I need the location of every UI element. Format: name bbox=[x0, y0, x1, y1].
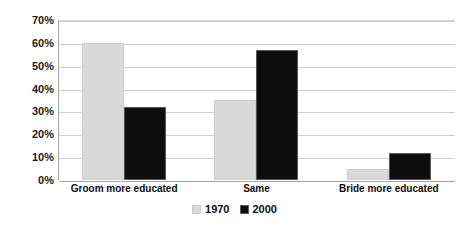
bar-2000-groom-more-educated bbox=[124, 107, 166, 180]
y-axis-tick-label: 30% bbox=[2, 106, 54, 117]
legend-item-1970[interactable]: 1970 bbox=[192, 204, 229, 215]
bars-layer bbox=[58, 20, 455, 180]
bar-group bbox=[58, 20, 190, 180]
gridline bbox=[59, 181, 455, 182]
y-axis-tick-label: 20% bbox=[2, 129, 54, 140]
y-axis-tick-label: 70% bbox=[2, 15, 54, 26]
chart-legend: 19702000 bbox=[0, 204, 469, 215]
bar-1970-groom-more-educated bbox=[82, 43, 124, 180]
bar-group bbox=[190, 20, 322, 180]
bar-1970-same bbox=[214, 100, 256, 180]
bar-2000-bride-more-educated bbox=[389, 153, 431, 180]
bar-group bbox=[323, 20, 455, 180]
y-axis-tick-label: 0% bbox=[2, 175, 54, 186]
x-axis-category-labels: Groom more educatedSameBride more educat… bbox=[58, 183, 455, 199]
legend-swatch-icon bbox=[240, 205, 249, 214]
legend-label: 1970 bbox=[205, 204, 229, 215]
bar-chart: 0%10%20%30%40%50%60%70% Groom more educa… bbox=[0, 0, 469, 232]
y-axis-tick-label: 10% bbox=[2, 152, 54, 163]
y-axis-tick-label: 40% bbox=[2, 84, 54, 95]
category-label: Same bbox=[190, 183, 322, 195]
y-axis-tick-label: 60% bbox=[2, 38, 54, 49]
bar-2000-same bbox=[256, 50, 298, 180]
category-label: Bride more educated bbox=[323, 183, 455, 195]
category-label: Groom more educated bbox=[58, 183, 190, 195]
y-axis-tick-label: 50% bbox=[2, 61, 54, 72]
legend-item-2000[interactable]: 2000 bbox=[240, 204, 277, 215]
y-axis-tick-labels: 0%10%20%30%40%50%60%70% bbox=[0, 20, 54, 180]
bar-1970-bride-more-educated bbox=[347, 169, 389, 180]
legend-label: 2000 bbox=[253, 204, 277, 215]
legend-swatch-icon bbox=[192, 205, 201, 214]
